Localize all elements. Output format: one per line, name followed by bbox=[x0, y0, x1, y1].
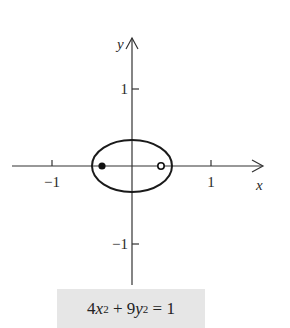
y-tick-label-1: 1 bbox=[121, 81, 129, 97]
y-tick-label-neg1: −1 bbox=[112, 236, 128, 252]
y-axis-label: y bbox=[115, 36, 124, 52]
caption-var-y: y bbox=[135, 299, 143, 319]
caption-var-x: x bbox=[96, 299, 104, 319]
equation-caption: 4x2 + 9y2 = 1 bbox=[57, 289, 205, 328]
focus-point-open bbox=[158, 163, 164, 169]
caption-plus: + bbox=[109, 299, 127, 319]
x-axis-label: x bbox=[255, 177, 263, 193]
x-tick-label-1: 1 bbox=[207, 174, 215, 190]
focus-point-filled bbox=[98, 162, 105, 169]
caption-coef2: 9 bbox=[127, 299, 136, 319]
ellipse-plot: −1 1 1 −1 y x bbox=[0, 0, 290, 328]
caption-rhs: = 1 bbox=[148, 299, 175, 319]
caption-coef1: 4 bbox=[87, 299, 96, 319]
x-tick-label-neg1: −1 bbox=[44, 174, 60, 190]
